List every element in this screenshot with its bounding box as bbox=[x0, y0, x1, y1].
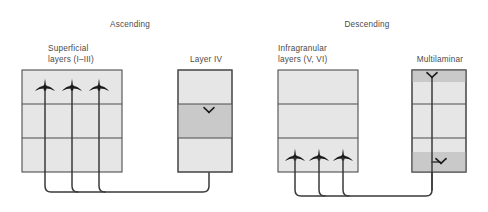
box-multilaminar bbox=[412, 70, 466, 172]
panel-ascending bbox=[22, 70, 232, 192]
diagram-graphics bbox=[0, 0, 488, 212]
panel-descending bbox=[278, 70, 466, 196]
cortical-connectivity-diagram: Ascending Descending Superficial layers … bbox=[0, 0, 488, 212]
box-layer-iv bbox=[178, 70, 232, 172]
